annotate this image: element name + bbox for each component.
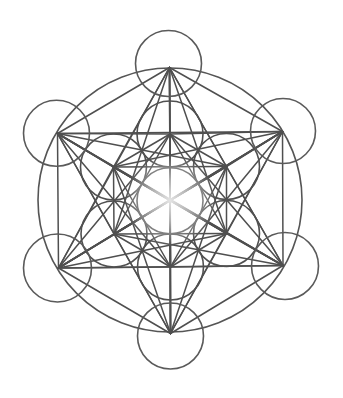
metatrons-cube-figure: Metatron's Cube xyxy=(0,0,343,398)
connecting-line-outer-lower-left-to-outer-upper-left xyxy=(58,134,59,269)
connecting-line-outer-upper-right-to-outer-lower-right xyxy=(283,132,284,266)
diagram-canvas: Metatron's Cube xyxy=(0,0,343,398)
center-glow xyxy=(124,155,216,247)
